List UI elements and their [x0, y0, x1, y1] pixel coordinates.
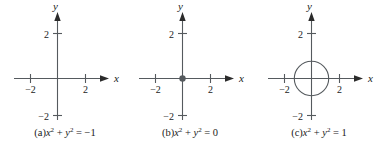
figure-three-conic-cases: x y −2 2 2 −2 (a)x2 + y2 = −1 [0, 0, 391, 151]
panel-a: x y −2 2 2 −2 (a)x2 + y2 = −1 [0, 0, 130, 151]
xtick-label-neg2: −2 [25, 84, 36, 95]
caption-c-plus: + [314, 127, 320, 138]
origin-point-marker [179, 75, 185, 81]
caption-a-exp-y: 2 [70, 126, 74, 134]
x-axis-label: x [367, 72, 373, 84]
xtick-label-neg2: −2 [279, 84, 290, 95]
axes-svg-b: x y −2 2 2 −2 [125, 0, 255, 126]
ytick-label-neg2: −2 [38, 111, 49, 122]
panel-c: x y −2 2 2 −2 (c)x2 + y2 = 1 [254, 0, 384, 151]
plot-a: x y −2 2 2 −2 [0, 0, 130, 126]
y-axis-label: y [177, 0, 183, 12]
caption-b-rhs: 0 [213, 127, 218, 138]
caption-a-exp-x: 2 [51, 126, 55, 134]
axes-svg-c: x y −2 2 2 −2 [254, 0, 384, 126]
xtick-label-pos2: 2 [83, 84, 88, 95]
y-axis-label: y [306, 0, 312, 12]
y-axis-arrowhead-icon [179, 12, 185, 21]
x-axis-arrowhead-icon [225, 75, 234, 81]
caption-c-exp-y: 2 [327, 126, 331, 134]
ytick-label-pos2: 2 [44, 29, 49, 40]
caption-b-prefix: (b) [162, 127, 174, 138]
caption-a-rhs: −1 [85, 127, 96, 138]
caption-c-exp-x: 2 [308, 126, 312, 134]
caption-a-plus: + [57, 127, 63, 138]
xtick-label-neg2: −2 [150, 84, 161, 95]
ytick-label-neg2: −2 [163, 111, 174, 122]
caption-c-equals: = [333, 127, 339, 138]
x-axis-arrowhead-icon [100, 75, 109, 81]
ytick-label-pos2: 2 [298, 29, 303, 40]
y-axis-arrowhead-icon [54, 12, 60, 21]
caption-b-exp-x: 2 [179, 126, 183, 134]
plot-b: x y −2 2 2 −2 [125, 0, 255, 126]
panel-b: x y −2 2 2 −2 (b)x2 + y2 = 0 [125, 0, 255, 151]
xtick-label-pos2: 2 [337, 84, 342, 95]
caption-b: (b)x2 + y2 = 0 [125, 126, 255, 140]
caption-b-exp-y: 2 [198, 126, 202, 134]
y-axis-label: y [52, 0, 58, 12]
caption-c: (c)x2 + y2 = 1 [254, 126, 384, 140]
caption-b-plus: + [185, 127, 191, 138]
plot-c: x y −2 2 2 −2 [254, 0, 384, 126]
axes-svg-a: x y −2 2 2 −2 [0, 0, 130, 126]
xtick-label-pos2: 2 [208, 84, 213, 95]
caption-a-equals: = [76, 127, 82, 138]
x-axis-label: x [113, 72, 119, 84]
x-axis-label: x [238, 72, 244, 84]
x-axis-arrowhead-icon [354, 75, 363, 81]
caption-c-prefix: (c) [291, 127, 303, 138]
caption-a: (a)x2 + y2 = −1 [0, 126, 130, 140]
ytick-label-pos2: 2 [169, 29, 174, 40]
y-axis-arrowhead-icon [308, 12, 314, 21]
caption-a-prefix: (a) [34, 127, 46, 138]
caption-b-equals: = [204, 127, 210, 138]
caption-c-rhs: 1 [342, 127, 347, 138]
ytick-label-neg2: −2 [292, 111, 303, 122]
